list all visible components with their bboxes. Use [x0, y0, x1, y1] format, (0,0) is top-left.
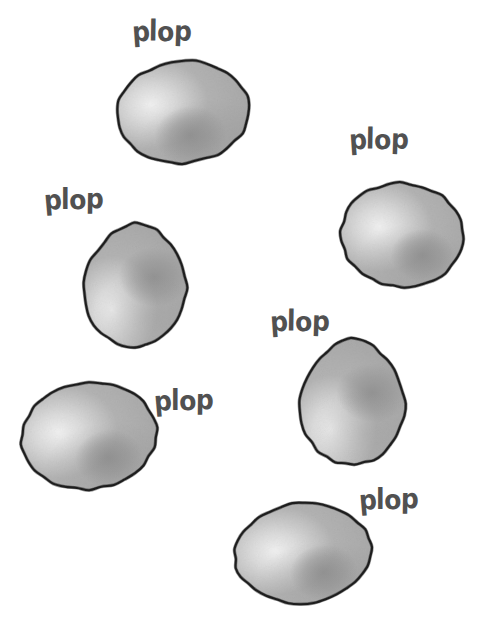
- blob-3-outline-soft: [336, 178, 467, 292]
- sound-effect-text: plop: [132, 18, 193, 44]
- blob-3-shape: [334, 176, 469, 295]
- blob-4-outline-soft: [14, 375, 164, 498]
- blob-5-rim-shadow: [311, 387, 417, 480]
- blob-4-shape: [12, 372, 167, 500]
- blob-1-outline: [113, 54, 255, 170]
- blob-4-shadow: [72, 426, 146, 490]
- blob-6-shape: [228, 494, 379, 612]
- blob-1-shadow: [152, 102, 230, 168]
- sound-effect-text: plop: [44, 186, 105, 213]
- blob-3-fill: [336, 178, 467, 292]
- blob-5-outline: [297, 336, 408, 466]
- blob-6-outline-soft: [230, 496, 376, 609]
- blob-top-left: [109, 51, 258, 173]
- blob-2-outline-soft: [80, 220, 190, 350]
- blob-lower-right: [294, 334, 411, 470]
- blob-3-shadow: [389, 227, 457, 284]
- blob-4-outline: [14, 375, 164, 498]
- blob-1-fill: [113, 54, 255, 170]
- blob-4-fill: [14, 375, 164, 498]
- sound-effect-text: plop: [359, 486, 420, 513]
- blob-bottom-right: [228, 494, 379, 612]
- blob-5-fill: [297, 336, 408, 466]
- sfx-glyph: p: [312, 307, 331, 335]
- sfx-glyph: p: [391, 125, 410, 153]
- illustration-canvas: plopplopplopplopplopplop: [0, 0, 485, 635]
- sound-effect-text: plop: [154, 387, 215, 414]
- blob-bottom-left: [12, 372, 167, 500]
- blob-6-rim-shadow: [254, 535, 390, 618]
- blob-1-rim-shadow: [135, 93, 269, 179]
- blob-6-outline: [230, 496, 376, 609]
- sound-effect-text: plop: [270, 308, 331, 334]
- sfx-glyph: p: [196, 386, 215, 414]
- blob-2-fill: [80, 220, 190, 350]
- blob-mid-left: [77, 217, 194, 353]
- sfx-glyph: p: [174, 17, 193, 45]
- blob-2-shadow: [117, 246, 192, 309]
- sfx-glyph: p: [86, 185, 105, 213]
- blob-3-outline: [336, 178, 467, 292]
- blob-6-fill: [230, 496, 376, 609]
- blob-6-shadow: [287, 542, 360, 603]
- blob-2-rim-shadow: [94, 270, 200, 364]
- blob-3-rim-shadow: [354, 221, 477, 304]
- blob-2-shape: [77, 217, 194, 353]
- sfx-glyph: p: [401, 485, 420, 513]
- sound-effect-text: plop: [349, 126, 410, 152]
- blob-2-outline: [80, 220, 190, 350]
- blob-5-shape: [294, 334, 411, 470]
- blob-5-outline-soft: [297, 336, 408, 466]
- blob-mid-right: [334, 176, 469, 295]
- blob-5-shadow: [335, 362, 409, 424]
- blob-4-rim-shadow: [40, 415, 179, 507]
- blob-1-outline-soft: [113, 54, 255, 170]
- blob-1-shape: [109, 51, 258, 173]
